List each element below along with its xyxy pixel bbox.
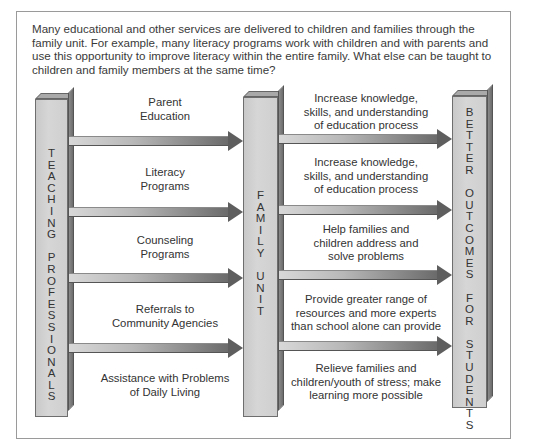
pillar-side-face (487, 84, 493, 402)
service-label-2: CounselingPrograms (90, 234, 240, 261)
intro-paragraph: Many educational and other services are … (32, 22, 507, 76)
pillar-letter: F (35, 287, 68, 299)
pillar-letter (452, 281, 487, 293)
pillar-label-better-outcomes: BETTER OUTCOMES FOR STUDENTS (452, 107, 487, 432)
arrow-service-0 (69, 133, 243, 149)
pillar-letter: R (35, 264, 68, 276)
pillar-label-family-unit: FAMILY UNIT (243, 190, 278, 318)
pillar-letter: C (452, 223, 487, 235)
pillar-family-unit: FAMILY UNIT (243, 97, 278, 417)
pillar-teaching-professionals: TEACHING PROFESSIONALS (35, 99, 68, 417)
pillar-letter: S (452, 420, 487, 432)
pillar-letter: G (35, 229, 68, 241)
service-label-3: Referrals toCommunity Agencies (80, 303, 250, 330)
pillar-better-outcomes: BETTER OUTCOMES FOR STUDENTS (452, 96, 487, 408)
pillar-letter: F (243, 190, 278, 202)
outcome-label-1: Increase knowledge,skills, and understan… (282, 156, 450, 197)
pillar-letter: O (452, 188, 487, 200)
pillar-letter: O (452, 304, 487, 316)
pillar-letter: R (452, 165, 487, 177)
pillar-letter: U (243, 271, 278, 283)
arrow-head-icon (228, 338, 243, 358)
outcome-label-2: Help families andchildren address andsol… (282, 223, 450, 264)
arrow-head-icon (437, 200, 452, 220)
arrow-service-1 (69, 204, 243, 220)
arrow-service-3 (69, 340, 243, 356)
pillar-label-teaching-professionals: TEACHING PROFESSIONALS (35, 148, 68, 403)
arrow-service-2 (69, 270, 243, 286)
arrow-head-icon (437, 129, 452, 149)
arrow-outcome-0 (279, 131, 452, 147)
outcome-label-0: Increase knowledge,skills, and understan… (282, 92, 450, 133)
arrow-head-icon (228, 268, 243, 288)
pillar-letter: U (452, 362, 487, 374)
pillar-letter: B (452, 107, 487, 119)
pillar-letter: T (35, 148, 68, 160)
pillar-letter: S (35, 322, 68, 334)
service-label-4: Assistance with Problemsof Daily Living (80, 372, 250, 399)
arrow-head-icon (437, 265, 452, 285)
pillar-letter: M (452, 246, 487, 258)
service-label-0: ParentEducation (90, 96, 240, 123)
arrow-head-icon (228, 202, 243, 222)
service-label-1: LiteracyPrograms (90, 166, 240, 193)
pillar-letter: Y (243, 248, 278, 260)
pillar-letter: O (35, 345, 68, 357)
arrow-head-icon (437, 336, 452, 356)
outcome-label-4: Relieve families andchildren/youth of st… (278, 362, 454, 403)
outcome-label-3: Provide greater range ofresources and mo… (278, 293, 454, 334)
arrow-outcome-3 (279, 338, 452, 354)
arrow-outcome-2 (279, 267, 452, 283)
pillar-letter: S (35, 391, 68, 403)
arrow-head-icon (228, 131, 243, 151)
pillar-letter: I (35, 206, 68, 218)
arrow-outcome-1 (279, 202, 452, 218)
